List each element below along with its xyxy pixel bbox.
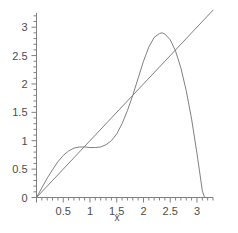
x-axis-tick-label: 0.5 <box>56 205 71 217</box>
x-axis-tick-label: 1 <box>87 205 93 217</box>
plot-canvas: 00.511.522.53 0.511.522.53 x <box>0 0 238 233</box>
y-axis-tick-label: 1 <box>21 135 27 147</box>
plot-container: 00.511.522.53 0.511.522.53 x <box>0 0 238 233</box>
y-axis-tick-label: 2 <box>21 78 27 90</box>
x-axis-title: x <box>115 212 120 223</box>
y-axis-tick-label: 3 <box>21 21 27 33</box>
y-axis-tick-label: 1.5 <box>12 106 27 118</box>
x-axis-tick-label: 2 <box>140 205 146 217</box>
y-axis-tick-label: 2.5 <box>12 50 27 62</box>
x-axis-tick-label: 3 <box>194 205 200 217</box>
y-axis-tick-label: 0.5 <box>12 163 27 175</box>
y-axis-origin-label: 0 <box>21 192 27 204</box>
x-axis-tick-label: 2.5 <box>163 205 178 217</box>
